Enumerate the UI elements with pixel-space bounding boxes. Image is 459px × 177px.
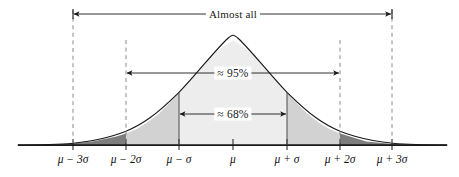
tick-label-plus-1-sigma: μ + σ bbox=[275, 153, 300, 166]
tick-label-minus-3-sigma: μ − 3σ bbox=[58, 153, 89, 166]
tick-label-minus-2-sigma: μ − 2σ bbox=[111, 153, 142, 166]
normal-distribution-figure: Almost all ≈ 95% ≈ 68% μ − 3σ μ − 2σ μ −… bbox=[0, 0, 459, 177]
tick-label-plus-3-sigma: μ + 3σ bbox=[377, 153, 408, 166]
annotation-label-95-percent: ≈ 95% bbox=[214, 67, 251, 80]
distribution-plot bbox=[0, 0, 459, 177]
tick-label-minus-1-sigma: μ − σ bbox=[167, 153, 192, 166]
tick-label-plus-2-sigma: μ + 2σ bbox=[325, 153, 356, 166]
annotation-label-almost-all: Almost all bbox=[206, 8, 260, 21]
tick-label-mu: μ bbox=[230, 153, 236, 166]
area-central-one-sigma bbox=[179, 41, 287, 145]
annotation-label-68-percent: ≈ 68% bbox=[214, 108, 251, 121]
